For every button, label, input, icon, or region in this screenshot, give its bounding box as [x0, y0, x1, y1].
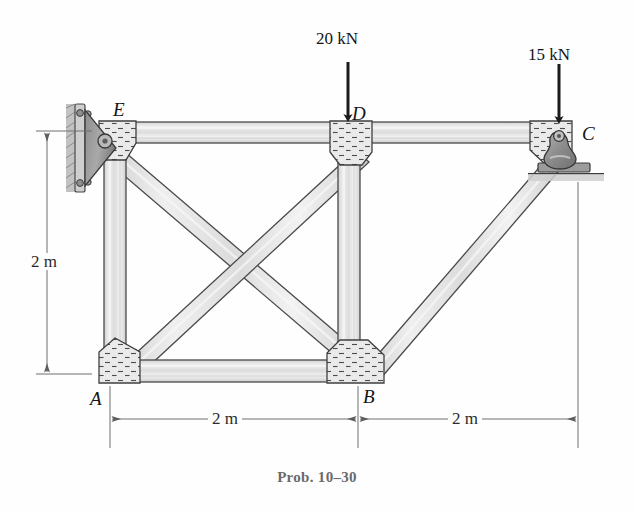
- joint-gusset-d: [330, 121, 372, 165]
- truss-figure: 20 kN 15 kN E D C A B 2 m 2 m 2 m Prob. …: [0, 0, 634, 512]
- joint-label-c: C: [582, 124, 595, 143]
- dimension-label-height: 2 m: [27, 253, 61, 270]
- joint-label-d: D: [352, 104, 366, 123]
- load-label-15kn: 15 kN: [528, 46, 570, 63]
- truss-drawing: [0, 0, 634, 512]
- member-bottom-chord-ab: [104, 360, 364, 382]
- dimension-label-span-bc: 2 m: [448, 410, 482, 427]
- joint-label-e: E: [113, 100, 125, 119]
- joint-gusset-b: [327, 340, 384, 383]
- joint-label-a: A: [90, 389, 102, 408]
- load-label-20kn: 20 kN: [316, 30, 358, 47]
- member-vertical-ea: [104, 140, 126, 372]
- member-diagonal-bc: [368, 155, 563, 378]
- joint-label-b: B: [363, 387, 375, 406]
- dimension-label-span-ab: 2 m: [208, 410, 242, 427]
- figure-caption: Prob. 10–30: [0, 469, 634, 486]
- member-top-chord-ed: [110, 122, 352, 143]
- member-vertical-db: [338, 140, 360, 372]
